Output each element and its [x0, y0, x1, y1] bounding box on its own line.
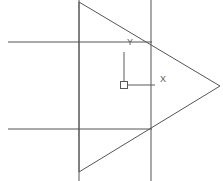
ucs-y-axis-label: Y: [127, 38, 133, 47]
arrow-triangle[interactable]: [79, 2, 220, 172]
triangle-edge-upper[interactable]: [79, 2, 220, 86]
ucs-x-axis-label: X: [160, 75, 166, 84]
ucs-icon[interactable]: [121, 52, 156, 89]
drawing-canvas[interactable]: [0, 0, 223, 181]
ucs-origin-box[interactable]: [121, 82, 128, 89]
cad-drawing-viewport[interactable]: Y X: [0, 0, 223, 181]
construction-lines: [8, 0, 152, 181]
